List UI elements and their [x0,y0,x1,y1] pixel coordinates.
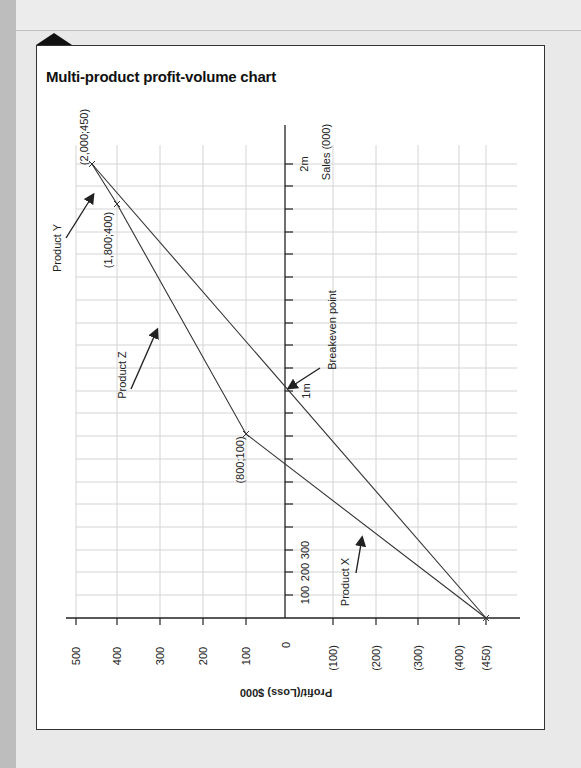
profit-axis-ticks [76,618,486,625]
label-product-x: Product X [339,557,351,606]
profit-tick-neg300: (300) [412,645,424,671]
product-z-arrow-icon [131,330,157,389]
label-point-2000: (2,000;450) [78,109,90,165]
sales-tick-300: 300 [299,541,311,559]
label-point-1800: (1,800;400) [102,212,114,268]
label-point-800: (800;100) [234,436,246,483]
sales-axis-ticks [285,164,293,595]
profit-tick-500: 500 [70,647,82,665]
profit-tick-neg100: (100) [327,645,339,671]
sales-tick-200: 200 [299,563,311,581]
pv-chart: 500 400 300 200 100 0 (100) (200) (300) … [0,0,581,768]
label-breakeven: Breakeven point [326,290,338,370]
profit-tick-0: 0 [280,642,292,648]
sales-tick-100: 100 [299,586,311,604]
label-product-y: Product Y [51,223,63,272]
sales-tick-2m: 2m [298,156,310,171]
profit-tick-neg450: (450) [480,645,492,671]
product-x-arrow-icon [356,538,362,573]
label-product-z: Product Z [116,351,128,399]
sales-tick-1m: 1m [300,383,312,398]
profit-axis-title: Profit/(Loss) $000 [240,687,332,699]
profit-tick-200: 200 [197,647,209,665]
grid-horizontal [76,164,517,595]
profit-tick-neg400: (400) [453,645,465,671]
profit-tick-400: 400 [111,647,123,665]
profit-tick-neg200: (200) [370,645,382,671]
sales-axis-title: Sales (000) [320,124,332,180]
profit-tick-labels: 500 400 300 200 100 0 (100) (200) (300) … [70,642,492,671]
profit-tick-100: 100 [240,647,252,665]
profit-tick-300: 300 [154,647,166,665]
